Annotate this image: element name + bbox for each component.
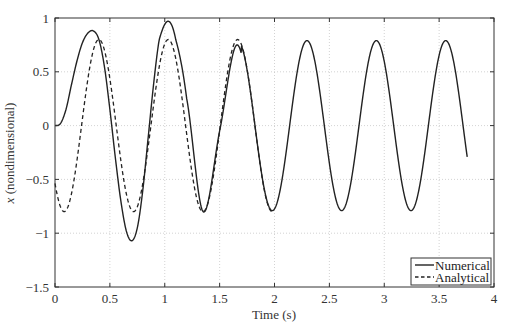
x-tick-label: 1.5 xyxy=(212,291,228,306)
x-tick-label: 2.5 xyxy=(321,291,337,306)
x-tick-label: 2 xyxy=(271,291,278,306)
x-tick-label: 3 xyxy=(381,291,388,306)
x-tick-label: 0 xyxy=(52,291,59,306)
y-tick-labels: −1.5−1−0.500.51 xyxy=(25,11,49,295)
x-tick-labels: 00.511.522.533.54 xyxy=(52,291,498,306)
y-tick-label: −1.5 xyxy=(25,280,49,295)
x-tick-label: 3.5 xyxy=(431,291,447,306)
x-tick-label: 4 xyxy=(491,291,498,306)
chart: 00.511.522.533.54 −1.5−1−0.500.51 Time (… xyxy=(0,0,513,327)
grid-lines xyxy=(55,18,494,287)
x-tick-label: 1 xyxy=(162,291,169,306)
x-tick-label: 0.5 xyxy=(102,291,118,306)
y-axis-label: x (nondimensional) xyxy=(2,103,17,205)
y-tick-label: 1 xyxy=(43,11,50,26)
series-layer xyxy=(55,21,467,241)
y-tick-label: −0.5 xyxy=(25,172,49,187)
x-axis-label: Time (s) xyxy=(252,307,296,322)
y-tick-label: 0 xyxy=(43,118,50,133)
legend-analytical-label: Analytical xyxy=(435,270,490,285)
y-tick-label: −1 xyxy=(35,226,49,241)
y-tick-label: 0.5 xyxy=(33,64,49,79)
legend: Numerical Analytical xyxy=(411,258,491,286)
